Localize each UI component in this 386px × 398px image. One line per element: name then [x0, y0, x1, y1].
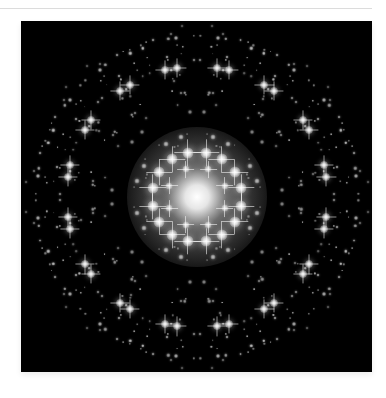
- outer-ring-b-spot: [161, 320, 169, 328]
- faint-spot: [46, 141, 49, 144]
- faint-spot: [128, 339, 131, 342]
- faint-spot: [260, 116, 262, 118]
- faint-spot: [328, 244, 330, 246]
- faint-spot: [116, 260, 118, 262]
- faint-spot: [259, 330, 261, 332]
- faint-spot: [146, 219, 148, 221]
- inner-ring-b-spot: [229, 216, 240, 227]
- faint-spot: [193, 332, 196, 335]
- faint-spot: [271, 295, 273, 297]
- faint-spot: [210, 346, 212, 348]
- edge-ring-spot: [174, 354, 178, 358]
- outer-ring-b-spot: [81, 260, 89, 268]
- faint-spot: [132, 276, 134, 278]
- edge-ring-b-spot: [311, 172, 314, 175]
- mid-ring-b-spot: [110, 188, 114, 192]
- faint-spot: [220, 78, 222, 80]
- mid-ring-a-spot: [248, 163, 253, 168]
- faint-spot: [216, 348, 218, 350]
- faint-spot: [46, 182, 48, 184]
- mid-ring-c-spot: [180, 92, 183, 95]
- mid-ring-c-spot: [280, 133, 283, 136]
- faint-spot: [339, 212, 341, 214]
- top-divider-line: [0, 8, 372, 9]
- faint-spot: [176, 144, 178, 146]
- faint-spot: [182, 46, 184, 48]
- faint-spot: [104, 176, 107, 179]
- faint-spot: [267, 88, 270, 91]
- faint-spot: [38, 239, 41, 242]
- faint-spot: [260, 113, 264, 117]
- faint-spot: [276, 132, 278, 134]
- faint-spot: [302, 171, 304, 173]
- inner-ring-a-spot: [205, 221, 212, 228]
- faint-spot: [336, 226, 339, 229]
- inner-ring-b-spot: [216, 154, 227, 165]
- faint-spot: [198, 332, 201, 335]
- mid-ring-a-spot: [141, 163, 146, 168]
- outer-ring-b-spot: [81, 126, 89, 134]
- faint-spot: [247, 215, 249, 217]
- faint-spot: [234, 248, 236, 250]
- faint-spot: [317, 141, 320, 144]
- faint-spot: [184, 298, 186, 300]
- faint-spot: [336, 165, 339, 168]
- faint-spot: [328, 149, 330, 151]
- faint-spot: [270, 341, 272, 343]
- faint-spot: [53, 181, 55, 183]
- faint-spot: [316, 118, 319, 121]
- faint-spot: [246, 335, 248, 337]
- faint-spot: [206, 133, 208, 135]
- faint-spot: [128, 52, 131, 55]
- faint-spot: [294, 101, 297, 104]
- outer-ring-b-spot: [305, 126, 313, 134]
- faint-spot: [199, 357, 201, 359]
- faint-spot: [302, 221, 304, 223]
- edge-ring-b-spot: [219, 311, 222, 314]
- faint-spot: [308, 287, 310, 289]
- faint-spot: [141, 344, 144, 347]
- faint-spot: [141, 75, 144, 78]
- faint-spot: [73, 179, 75, 181]
- mid-ring-b-spot: [260, 140, 264, 144]
- faint-spot: [263, 49, 265, 51]
- faint-spot: [88, 125, 91, 128]
- faint-spot: [149, 72, 152, 75]
- mid-ring-a-spot: [134, 210, 139, 215]
- faint-spot: [293, 329, 296, 332]
- faint-spot: [173, 246, 175, 248]
- central-glow: [127, 127, 267, 267]
- faint-spot: [357, 199, 359, 201]
- faint-spot: [130, 113, 134, 117]
- faint-spot: [207, 94, 209, 96]
- faint-spot: [146, 335, 148, 337]
- faint-spot: [62, 98, 65, 101]
- faint-spot: [289, 75, 291, 77]
- faint-spot: [113, 260, 117, 264]
- faint-spot: [84, 106, 86, 108]
- faint-spot: [59, 193, 62, 196]
- faint-spot: [256, 323, 258, 325]
- faint-spot: [335, 146, 337, 148]
- mid-ring-b-spot: [188, 280, 192, 284]
- mid-ring-b-spot: [250, 130, 254, 134]
- inner-ring-a-spot: [205, 166, 212, 173]
- faint-spot: [308, 106, 310, 108]
- faint-spot: [224, 354, 227, 357]
- faint-spot: [250, 344, 253, 347]
- faint-spot: [186, 259, 188, 261]
- faint-spot: [330, 259, 332, 261]
- faint-spot: [221, 302, 223, 304]
- faint-spot: [332, 193, 335, 196]
- faint-spot: [304, 125, 307, 128]
- faint-spot: [332, 198, 335, 201]
- faint-spot: [117, 144, 120, 147]
- faint-spot: [129, 95, 131, 97]
- faint-spot: [100, 80, 102, 82]
- faint-spot: [298, 184, 300, 186]
- faint-spot: [248, 159, 250, 161]
- mid-ring-a-spot: [163, 141, 168, 146]
- faint-spot: [171, 91, 173, 93]
- faint-spot: [335, 246, 337, 248]
- faint-spot: [97, 290, 100, 293]
